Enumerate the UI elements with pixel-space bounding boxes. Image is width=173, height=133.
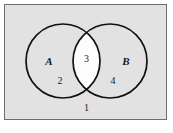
region-label-b-only: 4 (111, 75, 116, 86)
region-label-intersection: 3 (84, 53, 89, 64)
venn-diagram-figure: A B 2 3 4 1 (0, 0, 173, 133)
set-b-label: B (121, 55, 129, 67)
region-label-a-only: 2 (58, 75, 63, 86)
set-a-label: A (44, 55, 52, 67)
region-label-outside: 1 (84, 102, 89, 113)
venn-diagram-canvas: A B 2 3 4 1 (0, 0, 173, 133)
